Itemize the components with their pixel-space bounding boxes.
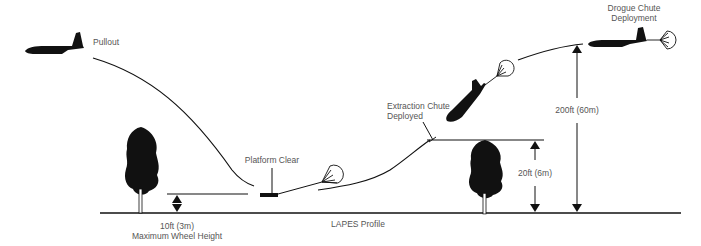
tree-icon <box>125 127 159 213</box>
double-arrow-icon <box>172 195 182 212</box>
platform-clear-label: Platform Clear <box>245 155 299 166</box>
approach-height-label: 200ft (60m) <box>555 105 598 116</box>
platform-tow-line <box>278 182 322 194</box>
obstacle-height-label: 20ft (6m) <box>518 168 552 179</box>
pullout-label: Pullout <box>93 37 119 48</box>
climbing-tow-line <box>485 76 497 85</box>
pullout-flight-path <box>93 58 254 186</box>
parachute-icon <box>497 60 514 76</box>
aircraft-pullout-icon <box>25 32 84 54</box>
tree-icon <box>469 140 503 214</box>
platform-icon <box>260 193 278 197</box>
parachute-icon <box>660 31 676 49</box>
approach-height-arrow <box>572 45 582 212</box>
aircraft-climbing-icon <box>446 79 486 122</box>
drogue-chute-label-line2: Deployment <box>611 13 656 24</box>
aircraft-drogue-icon <box>588 27 647 47</box>
parachute-icon <box>322 165 343 183</box>
lapes-profile-diagram: Pullout Platform Clear 10ft (3m) Maximum… <box>0 0 701 246</box>
extraction-pointer <box>423 122 433 140</box>
profile-title-label: LAPES Profile <box>331 219 385 230</box>
extraction-chute-label-line2: Deployed <box>387 111 423 122</box>
wheel-height-caption-label: Maximum Wheel Height <box>132 231 222 242</box>
